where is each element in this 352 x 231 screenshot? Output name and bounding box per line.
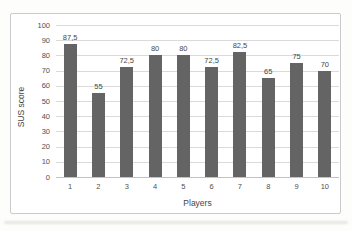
x-tick-label: 2 bbox=[82, 182, 114, 191]
y-tick-label: 50 bbox=[28, 97, 50, 106]
bar bbox=[92, 93, 105, 177]
chart-frame: SUS score Players 0102030405060708090100… bbox=[10, 13, 341, 214]
bar-value-label: 72,5 bbox=[195, 56, 229, 65]
gridline bbox=[56, 40, 339, 41]
x-tick-label: 4 bbox=[139, 182, 171, 191]
y-tick-label: 90 bbox=[28, 36, 50, 45]
bar-value-label: 70 bbox=[308, 60, 342, 69]
bar bbox=[262, 78, 275, 177]
y-tick-label: 100 bbox=[28, 21, 50, 30]
bar bbox=[177, 55, 190, 177]
y-tick-label: 30 bbox=[28, 127, 50, 136]
x-tick-label: 9 bbox=[281, 182, 313, 191]
x-tick-label: 1 bbox=[54, 182, 86, 191]
gridline bbox=[56, 25, 339, 26]
bar-value-label: 80 bbox=[166, 44, 200, 53]
y-tick-label: 0 bbox=[28, 173, 50, 182]
bar bbox=[318, 71, 331, 177]
bar bbox=[120, 67, 133, 177]
x-axis-line bbox=[56, 177, 339, 178]
y-tick-label: 10 bbox=[28, 157, 50, 166]
bar bbox=[290, 63, 303, 177]
bar-value-label: 55 bbox=[81, 82, 115, 91]
plot-area: 010203040506070809010087,5155272,5380480… bbox=[11, 14, 340, 213]
x-tick-label: 7 bbox=[224, 182, 256, 191]
bar-value-label: 65 bbox=[251, 67, 285, 76]
bar bbox=[64, 44, 77, 177]
bar bbox=[149, 55, 162, 177]
x-tick-label: 10 bbox=[309, 182, 341, 191]
y-tick-label: 40 bbox=[28, 112, 50, 121]
y-tick-label: 20 bbox=[28, 142, 50, 151]
bar-value-label: 87,5 bbox=[53, 33, 87, 42]
x-tick-label: 5 bbox=[167, 182, 199, 191]
x-tick-label: 6 bbox=[196, 182, 228, 191]
x-tick-label: 8 bbox=[252, 182, 284, 191]
scan-artifact-line bbox=[4, 221, 348, 224]
x-tick-label: 3 bbox=[111, 182, 143, 191]
y-tick-label: 60 bbox=[28, 81, 50, 90]
y-tick-label: 80 bbox=[28, 51, 50, 60]
scanned-figure: SUS score Players 0102030405060708090100… bbox=[0, 0, 352, 231]
y-tick-label: 70 bbox=[28, 66, 50, 75]
bar bbox=[205, 67, 218, 177]
bar-value-label: 82,5 bbox=[223, 41, 257, 50]
bar bbox=[233, 52, 246, 177]
bar-value-label: 72,5 bbox=[110, 56, 144, 65]
